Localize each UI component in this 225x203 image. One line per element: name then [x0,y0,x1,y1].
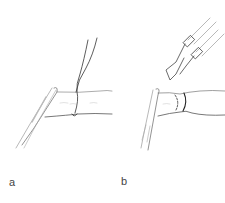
clamp-b [141,89,159,150]
figure-canvas [0,0,225,203]
vessel-b [158,91,225,117]
panel-b-drawing [141,18,225,150]
panel-a-drawing [16,38,112,148]
suture-a [72,38,97,116]
panel-label-a: a [9,176,15,188]
forceps-b [166,18,224,80]
panel-label-b: b [121,175,127,187]
clamp-a [16,88,57,149]
